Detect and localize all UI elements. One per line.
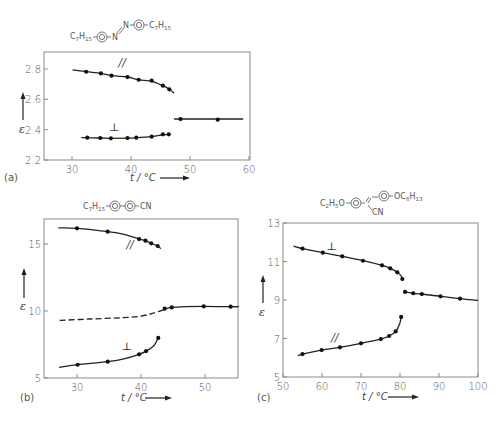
y-tick-label: 2.8 [25,64,41,75]
data-point [106,230,110,234]
series-label: // [125,238,135,251]
data-point [137,237,141,241]
molecule-a-left-group: C7H15 [70,32,93,42]
arrow-right-icon [165,396,172,401]
series-isotropic [174,117,243,122]
x-tick-label: 60 [316,381,329,392]
data-point [125,75,129,79]
data-point [400,277,404,281]
plot-frame [283,223,478,377]
x-tick-label: 90 [433,381,446,392]
y-tick-label: 2.2 [25,155,41,166]
y-tick-label: 7 [274,334,280,345]
data-point [202,304,206,308]
data-point [150,79,154,83]
molecule-c-left-group: C2H5O [320,199,345,209]
data-point [143,239,147,243]
x-tick-label: 60 [243,164,256,175]
data-point [320,348,324,352]
data-point [338,345,342,349]
data-point [109,136,113,140]
svg-text:ε: ε [20,300,26,313]
data-point [167,132,171,136]
data-point [109,74,113,78]
data-point [137,352,141,356]
y-tick-label: 13 [267,218,280,229]
y-tick-label: 9 [274,295,280,306]
molecule-a: C7H15 N N C7H15 [70,20,172,42]
y-tick-label: 5 [274,372,280,383]
data-point [75,226,79,230]
x-tick-label: 30 [66,164,79,175]
molecule-a-right-group: C7H15 [149,21,172,31]
data-point [458,297,462,301]
data-point [438,294,442,298]
figure: C7H15 N N C7H15 C7H15 CN C2H5O OC6H13 [0,0,496,422]
svg-text:ε: ε [259,306,265,319]
data-point [85,136,89,140]
molecule-c-right-group: OC6H13 [394,192,423,202]
data-point [216,118,220,122]
data-point [161,84,165,88]
x-tick-label: 50 [184,164,197,175]
y-tick-label: 11 [267,257,280,268]
x-tick-label: 100 [468,381,487,392]
panel-label-a: (a) [4,172,18,183]
panel-label-b: (b) [20,392,34,403]
x-axis-title-a: t / °C [130,172,190,183]
series-curve [60,309,165,320]
data-point [340,254,344,258]
data-point [300,352,304,356]
series-curve [298,317,401,356]
series-: // [73,56,175,93]
y-tick-label: 2.6 [25,94,41,105]
x-axis-title-c: t / °C [362,391,419,402]
plot-frame [44,52,250,160]
y-axis-title-b: ε [20,268,27,313]
molecule-a-n1: N [112,33,118,42]
data-point [161,132,165,136]
molecule-a-n2: N [123,21,129,30]
y-tick-label: 2.4 [25,125,41,136]
data-point [149,241,153,245]
data-point [106,360,110,364]
arrow-right-icon [412,395,419,400]
y-axis-title-c: ε [259,275,266,319]
data-point [137,78,141,82]
x-tick-label: 80 [394,381,407,392]
svg-text:ε: ε [19,123,25,136]
series-label: // [330,331,340,344]
data-point [134,136,138,140]
data-point [178,117,182,121]
chart-a: 304050602.22.42.62.8//⊥ [25,52,255,175]
svg-text:t / °C: t / °C [362,391,388,402]
chart-b: 30405051015//⊥ [28,219,239,393]
series-label: ⊥ [109,121,119,134]
series-: // [298,315,403,356]
series-: ⊥ [81,121,170,140]
data-point [411,291,415,295]
data-point [84,70,88,74]
arrow-up-icon [22,268,27,275]
data-point [156,244,160,248]
svg-text:t / °C: t / °C [130,172,156,183]
data-point [359,341,363,345]
data-point [387,334,391,338]
series-curve [73,70,175,94]
series-: ⊥ [59,336,160,367]
svg-text:t / °C: t / °C [121,392,147,403]
data-point [98,136,102,140]
data-point [125,136,129,140]
series-isotropic [403,290,478,301]
series-isotropic [163,304,239,311]
data-point [229,305,233,309]
data-point [167,87,171,91]
data-point [380,263,384,267]
data-point [170,305,174,309]
data-point [420,292,424,296]
data-point [403,290,407,294]
series-isotropicextrapolated [60,309,165,320]
x-tick-label: 30 [71,382,84,393]
x-axis-title-b: t / °C [121,392,172,403]
data-point [394,329,398,333]
